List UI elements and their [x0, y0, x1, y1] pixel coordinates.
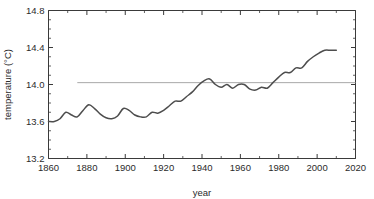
temperature-line-chart: 18601880190019201940196019802000202013.2… [0, 0, 374, 199]
x-tick-label-1960: 1960 [230, 162, 251, 173]
x-tick-label-1940: 1940 [191, 162, 212, 173]
y-axis-title: temperature (°C) [2, 49, 13, 120]
x-tick-label-1880: 1880 [76, 162, 97, 173]
x-tick-label-1900: 1900 [115, 162, 136, 173]
series-line-0 [49, 50, 337, 122]
y-tick-label-13.2: 13.2 [26, 153, 45, 164]
x-tick-label-1980: 1980 [268, 162, 289, 173]
axis-frame-left-bottom [49, 11, 356, 159]
x-tick-label-1920: 1920 [153, 162, 174, 173]
y-tick-label-14.4: 14.4 [26, 42, 45, 53]
x-axis-title: year [193, 187, 211, 198]
y-tick-label-13.6: 13.6 [26, 116, 45, 127]
y-tick-label-14: 14.0 [26, 79, 45, 90]
x-tick-label-2000: 2000 [307, 162, 328, 173]
x-tick-label-2020: 2020 [345, 162, 366, 173]
y-tick-label-14.8: 14.8 [26, 5, 45, 16]
